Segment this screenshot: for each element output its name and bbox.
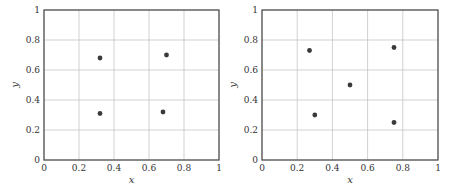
data-point: [348, 83, 353, 88]
x-tick-label: 0.6: [360, 163, 375, 173]
x-tick-label: 1: [435, 163, 441, 173]
y-tick-label: 0: [34, 155, 40, 165]
x-tick-label: 0.4: [325, 163, 340, 173]
data-point: [98, 111, 103, 116]
y-tick-label: 0.8: [244, 35, 259, 45]
y-tick-label: 0.4: [26, 95, 41, 105]
y-tick-label: 0.6: [244, 65, 259, 75]
figure: 00.20.40.60.8100.20.40.60.81xy 00.20.40.…: [0, 0, 459, 189]
x-tick-label: 0.8: [177, 163, 192, 173]
x-tick-label: 1: [216, 163, 222, 173]
x-tick-label: 0.8: [396, 163, 411, 173]
data-point: [98, 56, 103, 61]
scatter-panel-right: 00.20.40.60.8100.20.40.60.81xy: [227, 5, 441, 185]
data-point: [392, 45, 397, 50]
x-axis-label: x: [129, 174, 135, 185]
y-tick-label: 0.2: [244, 125, 258, 135]
data-point: [392, 120, 397, 125]
y-axis-label: y: [9, 82, 20, 89]
data-point: [164, 53, 169, 58]
y-tick-label: 1: [34, 5, 40, 15]
x-tick-label: 0: [41, 163, 47, 173]
y-tick-label: 0.4: [244, 95, 259, 105]
data-point: [161, 110, 166, 115]
y-tick-label: 0.8: [26, 35, 41, 45]
y-tick-label: 0: [252, 155, 258, 165]
scatter-panel-left: 00.20.40.60.8100.20.40.60.81xy: [9, 5, 222, 185]
x-tick-label: 0.2: [72, 163, 86, 173]
data-point: [307, 48, 312, 53]
x-tick-label: 0.2: [290, 163, 304, 173]
y-axis-label: y: [227, 82, 238, 89]
x-tick-label: 0.4: [107, 163, 122, 173]
y-tick-label: 1: [252, 5, 258, 15]
axes-frame: [44, 10, 219, 160]
x-axis-label: x: [347, 174, 353, 185]
x-tick-label: 0: [259, 163, 265, 173]
y-tick-label: 0.2: [26, 125, 40, 135]
y-tick-label: 0.6: [26, 65, 41, 75]
data-point: [312, 113, 317, 118]
x-tick-label: 0.6: [142, 163, 157, 173]
